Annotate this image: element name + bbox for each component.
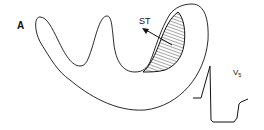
- panel-label: A: [17, 20, 24, 31]
- lead-label: V5: [233, 68, 241, 78]
- lead-subscript: 5: [238, 72, 241, 78]
- st-label: ST: [139, 16, 151, 26]
- diagram-canvas: A ST V5: [0, 0, 264, 130]
